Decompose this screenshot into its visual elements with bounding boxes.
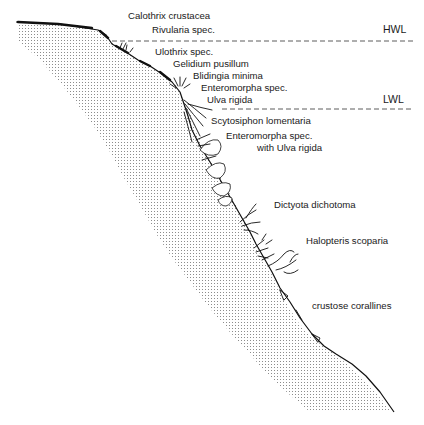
label-scytosiphon: Scytosiphon lomentaria <box>211 115 311 126</box>
label-enteromorpha-1: Enteromorpha spec. <box>201 82 287 93</box>
label-hwl: HWL <box>383 23 406 35</box>
label-gelidium: Gelidium pusillum <box>173 58 249 69</box>
label-with-ulva: with Ulva rigida <box>256 142 323 153</box>
label-lwl: LWL <box>383 93 404 105</box>
label-rivularia: Rivularia spec. <box>152 24 215 35</box>
label-halopteris: Halopteris scoparia <box>306 235 389 246</box>
label-ulva: Ulva rigida <box>207 94 253 105</box>
zonation-diagram: Calothrix crustacea Rivularia spec. HWL … <box>0 0 424 425</box>
label-enteromorpha-2: Enteromorpha spec. <box>226 130 312 141</box>
label-ulothrix: Ulothrix spec. <box>155 46 213 57</box>
label-blidingia: Blidingia minima <box>193 70 264 81</box>
label-dictyota: Dictyota dichotoma <box>274 199 356 210</box>
label-corallines: crustose corallines <box>312 300 392 311</box>
label-calothrix: Calothrix crustacea <box>128 10 211 21</box>
